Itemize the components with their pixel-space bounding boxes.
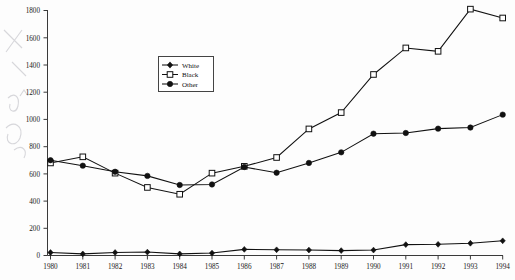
x-axis: 1980 1981 1982 1983 1984 1985 1986 1987 …: [43, 256, 510, 272]
filled-circle-marker-icon: [468, 125, 473, 130]
filled-circle-marker-icon: [339, 150, 344, 155]
open-square-marker-icon: [177, 191, 183, 197]
series-line-black: [51, 9, 503, 194]
filled-circle-marker-icon: [435, 126, 440, 131]
filled-circle-marker-icon: [80, 163, 85, 168]
series-black: [48, 6, 506, 197]
filled-diamond-marker-icon: [242, 246, 247, 252]
open-square-marker-icon: [371, 72, 377, 78]
chart-container: 0 200 400 600 800 1000 1200 1400 1600 18…: [0, 0, 515, 280]
open-square-marker-icon: [306, 126, 312, 132]
filled-circle-marker-icon: [500, 112, 505, 117]
x-axis-tick-labels: 1980 1981 1982 1983 1984 1985 1986 1987 …: [43, 263, 510, 271]
x-tick-label: 1983: [140, 263, 155, 271]
y-tick-label: 0: [36, 252, 40, 260]
legend-label: White: [182, 62, 199, 70]
y-tick-label: 600: [29, 171, 40, 179]
chart-legend: White Black Other: [159, 57, 214, 92]
line-chart: 0 200 400 600 800 1000 1200 1400 1600 18…: [0, 0, 515, 280]
margin-pencil-marks: [4, 30, 28, 158]
y-tick-label: 1400: [26, 62, 41, 70]
filled-circle-marker-icon: [145, 173, 150, 178]
filled-diamond-marker-icon: [339, 248, 344, 254]
series-white: [48, 238, 505, 257]
filled-diamond-marker-icon: [145, 249, 150, 255]
x-axis-ticks: [51, 256, 503, 260]
open-square-marker-icon: [338, 110, 344, 116]
open-square-marker-icon: [435, 49, 441, 55]
x-tick-label: 1980: [43, 263, 58, 271]
filled-diamond-marker-icon: [468, 240, 473, 246]
x-tick-label: 1991: [399, 263, 414, 271]
x-tick-label: 1992: [431, 263, 446, 271]
filled-circle-marker-icon: [112, 169, 117, 174]
y-tick-label: 1600: [26, 35, 41, 43]
filled-diamond-marker-icon: [500, 238, 505, 244]
filled-diamond-marker-icon: [306, 247, 311, 253]
x-tick-label: 1994: [496, 263, 511, 271]
x-tick-label: 1987: [269, 263, 284, 271]
filled-diamond-marker-icon: [274, 247, 279, 253]
y-tick-label: 1800: [26, 7, 41, 15]
open-square-marker-icon: [80, 154, 86, 160]
filled-diamond-marker-icon: [371, 247, 376, 253]
x-tick-label: 1984: [173, 263, 188, 271]
filled-circle-marker-icon: [48, 158, 53, 163]
x-tick-label: 1990: [366, 263, 381, 271]
open-square-marker-icon: [145, 185, 151, 191]
x-tick-label: 1989: [334, 263, 349, 271]
open-square-marker-icon: [209, 170, 215, 176]
x-tick-label: 1982: [108, 263, 123, 271]
open-square-marker-icon: [403, 45, 409, 51]
open-square-marker-icon: [274, 155, 280, 161]
x-tick-label: 1981: [76, 263, 91, 271]
y-axis-tick-labels: 0 200 400 600 800 1000 1200 1400 1600 18…: [26, 7, 41, 260]
y-axis-ticks: [44, 11, 48, 256]
open-square-marker-icon: [167, 72, 173, 78]
series-layer: [48, 6, 506, 256]
filled-circle-marker-icon: [177, 182, 182, 187]
filled-circle-marker-icon: [306, 160, 311, 165]
x-tick-label: 1988: [302, 263, 317, 271]
filled-circle-marker-icon: [242, 164, 247, 169]
filled-circle-marker-icon: [167, 81, 172, 86]
open-square-marker-icon: [500, 15, 506, 21]
filled-circle-marker-icon: [274, 170, 279, 175]
y-axis: 0 200 400 600 800 1000 1200 1400 1600 18…: [26, 7, 48, 260]
x-tick-label: 1986: [237, 263, 252, 271]
filled-circle-marker-icon: [371, 131, 376, 136]
filled-circle-marker-icon: [403, 130, 408, 135]
legend-label: Other: [182, 81, 199, 89]
open-square-marker-icon: [468, 6, 474, 12]
filled-diamond-marker-icon: [48, 250, 53, 256]
y-tick-label: 400: [29, 198, 40, 206]
y-tick-label: 1200: [26, 89, 41, 97]
y-tick-label: 800: [29, 143, 40, 151]
y-tick-label: 1000: [26, 116, 41, 124]
x-tick-label: 1985: [205, 263, 220, 271]
x-tick-label: 1993: [463, 263, 478, 271]
filled-diamond-marker-icon: [436, 241, 441, 247]
legend-label: Black: [182, 71, 199, 79]
filled-diamond-marker-icon: [403, 242, 408, 248]
filled-circle-marker-icon: [209, 182, 214, 187]
y-tick-label: 200: [29, 225, 40, 233]
filled-diamond-marker-icon: [113, 250, 118, 256]
